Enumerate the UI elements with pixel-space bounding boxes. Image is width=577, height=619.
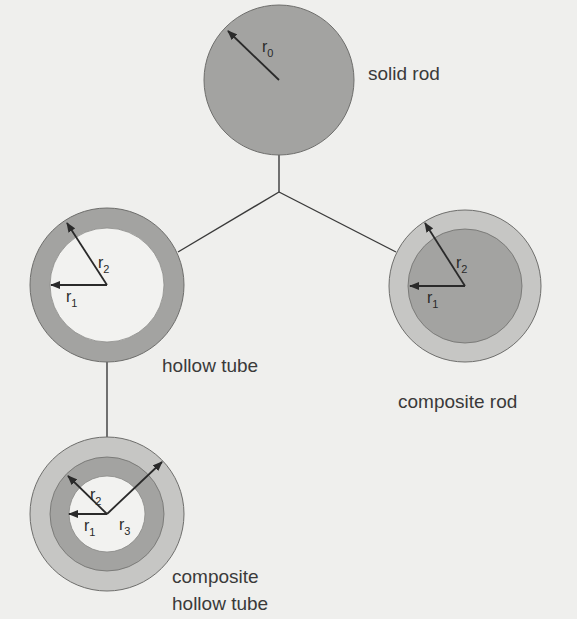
hollow-tube: r2 r1 hollow tube [30,208,258,376]
connector-composite-rod [279,192,396,252]
cross-section-diagram: r0 solid rod r2 r1 hollow tube r2 r1 com… [0,0,577,619]
connector-hollow-tube [178,192,279,252]
label-solid-rod: solid rod [368,63,440,84]
solid-rod: r0 solid rod [204,5,440,155]
composite-rod: r2 r1 composite rod [389,210,541,412]
label-composite-hollow-tube-line2: hollow tube [172,593,268,614]
composite-hollow-tube: r2 r1 r3 composite hollow tube [30,437,268,614]
label-composite-hollow-tube-line1: composite [172,566,259,587]
label-composite-rod: composite rod [398,391,517,412]
label-hollow-tube: hollow tube [162,355,258,376]
